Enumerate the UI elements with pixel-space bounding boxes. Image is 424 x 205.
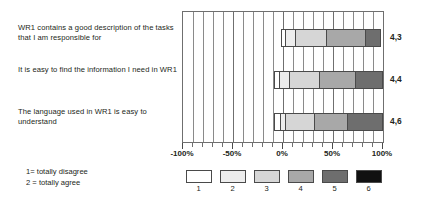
axis-tick [302, 143, 303, 147]
bar-segment-5 [366, 30, 380, 46]
question-label-2: The language used in WR1 is easy to unde… [18, 107, 183, 127]
axis-tick [342, 143, 343, 147]
bar-segment-5 [348, 114, 382, 130]
legend-key-1: 1 [196, 184, 200, 193]
legend-swatch-6 [356, 170, 382, 183]
legend-item-5[interactable]: 5 [319, 170, 350, 193]
axis-tick [212, 143, 213, 147]
mean-value-0: 4,3 [390, 32, 402, 42]
x-axis-label-3: 50% [324, 149, 340, 158]
question-label-1: It is easy to find the information I nee… [18, 65, 183, 75]
axis-tick [252, 143, 253, 147]
legend-swatch-2 [220, 170, 246, 183]
bar-segment-3 [290, 72, 319, 88]
bar-segment-5 [356, 72, 382, 88]
legend-item-3[interactable]: 3 [251, 170, 282, 193]
x-axis-label-2: 0% [276, 149, 288, 158]
question-label-0: WR1 contains a good description of the t… [18, 23, 183, 43]
legend-key-5: 5 [332, 184, 336, 193]
legend-swatch-3 [254, 170, 280, 183]
bar-segment-4 [320, 72, 357, 88]
mean-value-1: 4,4 [390, 74, 402, 84]
legend-item-4[interactable]: 4 [285, 170, 316, 193]
legend: 123456 [183, 170, 387, 193]
stacked-bar [281, 29, 381, 47]
axis-tick [372, 143, 373, 147]
legend-item-2[interactable]: 2 [217, 170, 248, 193]
bar-row-0 [183, 29, 383, 47]
legend-swatch-5 [322, 170, 348, 183]
legend-swatch-4 [288, 170, 314, 183]
plot-area [182, 11, 384, 143]
bar-segment-3 [286, 114, 315, 130]
axis-tick [262, 143, 263, 147]
axis-tick [272, 143, 273, 147]
axis-tick [192, 143, 193, 147]
axis-tick [222, 143, 223, 147]
stacked-bar [274, 71, 383, 89]
axis-tick [242, 143, 243, 147]
x-axis-labels: -100%-50%0%50%100% [0, 149, 424, 163]
bar-segment-4 [327, 30, 366, 46]
legend-item-6[interactable]: 6 [353, 170, 384, 193]
axis-tick [362, 143, 363, 147]
bar-segment-2 [286, 30, 296, 46]
bar-segment-4 [315, 114, 348, 130]
legend-item-1[interactable]: 1 [183, 170, 214, 193]
axis-tick [312, 143, 313, 147]
legend-key-4: 4 [298, 184, 302, 193]
legend-swatch-1 [186, 170, 212, 183]
bar-row-1 [183, 71, 383, 89]
x-axis-label-1: -50% [223, 149, 242, 158]
axis-tick [322, 143, 323, 147]
axis-tick [292, 143, 293, 147]
legend-key-3: 3 [264, 184, 268, 193]
bar-row-2 [183, 113, 383, 131]
scale-note: 1= totally disagree 2 = totally agree [26, 167, 88, 188]
mean-value-2: 4,6 [390, 116, 402, 126]
scale-note-line-1: 1= totally disagree [26, 167, 88, 178]
bar-segment-2 [280, 72, 290, 88]
x-axis-label-4: 100% [372, 149, 392, 158]
axis-tick [202, 143, 203, 147]
survey-chart: WR1 contains a good description of the t… [0, 0, 424, 205]
legend-key-2: 2 [230, 184, 234, 193]
legend-key-6: 6 [366, 184, 370, 193]
scale-note-line-2: 2 = totally agree [26, 178, 88, 189]
x-axis-label-0: -100% [170, 149, 193, 158]
bar-segment-3 [296, 30, 327, 46]
axis-tick [352, 143, 353, 147]
stacked-bar [274, 113, 383, 131]
